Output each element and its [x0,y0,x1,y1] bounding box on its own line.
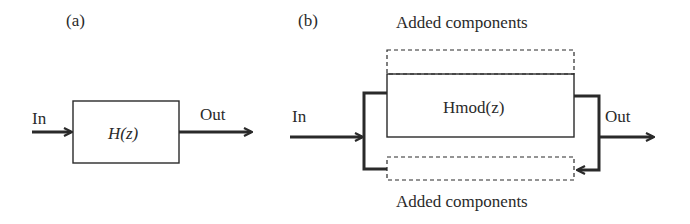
input-label: In [292,108,306,125]
output-feedback-bracket [574,96,599,170]
output-label: Out [200,106,226,123]
top-added-components-label: Added components [396,14,528,31]
bottom-added-components-box [387,157,574,180]
input-label: In [32,110,46,127]
bottom-added-components-label: Added components [396,193,528,210]
block-label: Hmod(z) [443,99,504,116]
block-label: H(z) [108,125,138,142]
panel-a-label: (a) [66,12,85,29]
top-added-components-box [387,50,574,74]
output-label: Out [605,108,631,125]
diagram-canvas [0,0,690,224]
input-split-bracket [364,93,387,169]
panel-b-label: (b) [298,12,318,29]
